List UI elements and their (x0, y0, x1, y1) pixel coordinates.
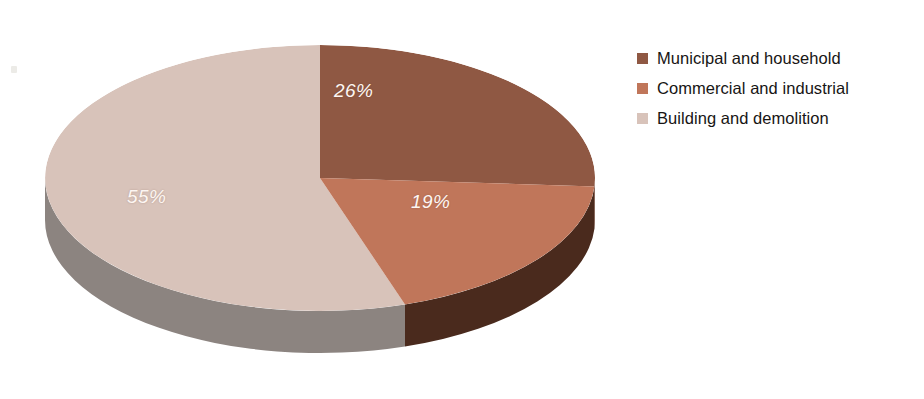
chart-plot-area: 26% 19% 55% (0, 0, 630, 399)
legend-label-commercial-and-industrial: Commercial and industrial (657, 79, 849, 98)
legend-item-commercial-and-industrial[interactable]: Commercial and industrial (637, 74, 917, 102)
legend-swatch-icon-building-and-demolition (637, 113, 648, 124)
legend-label-municipal-and-household: Municipal and household (657, 49, 841, 68)
pie-top-face (45, 45, 595, 311)
pie-chart-figure: 26% 19% 55% Municipal and household Comm… (0, 0, 924, 399)
legend-swatch-icon-commercial-and-industrial (637, 83, 648, 94)
legend-swatch-icon-municipal-and-household (637, 53, 648, 64)
side-wall-municipal-and-household (595, 178, 596, 228)
legend-item-building-and-demolition[interactable]: Building and demolition (637, 104, 917, 132)
legend-item-municipal-and-household[interactable]: Municipal and household (637, 44, 917, 72)
pie-chart-svg (0, 0, 630, 399)
chart-legend: Municipal and household Commercial and i… (637, 44, 917, 134)
pie-slice-municipal-and-household (320, 45, 595, 186)
legend-label-building-and-demolition: Building and demolition (657, 109, 829, 128)
